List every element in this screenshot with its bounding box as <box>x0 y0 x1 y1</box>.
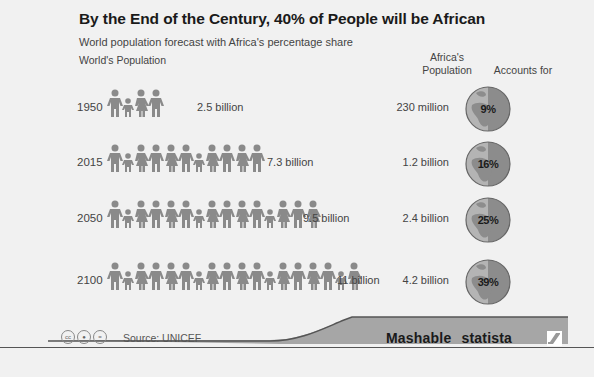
person-man-icon <box>148 144 164 172</box>
africa-population-value: 1.2 billion <box>403 156 449 168</box>
person-man-icon <box>290 262 306 290</box>
year-label: 2015 <box>77 156 103 168</box>
person-man-icon <box>148 262 164 290</box>
world-population-value: 11 billion <box>337 274 380 286</box>
africa-population-value: 230 million <box>396 101 449 113</box>
share-value: 16% <box>464 140 512 188</box>
person-woman-icon <box>204 200 220 228</box>
globe-icon: 25% <box>464 196 512 244</box>
license-icons: cc ● = <box>61 330 107 344</box>
person-woman-icon <box>234 200 250 228</box>
person-woman-icon <box>163 200 179 228</box>
no-derivatives-icon: = <box>93 330 107 344</box>
attribution-icon: ● <box>77 330 91 344</box>
world-population-value: 2.5 billion <box>197 101 243 113</box>
footer-divider <box>0 347 594 348</box>
table-row: 2100 11 billion 4.2 billion 39% <box>0 256 594 306</box>
year-label: 2050 <box>77 212 103 224</box>
person-man-icon <box>219 144 235 172</box>
world-population-value: 9.5 billion <box>303 212 349 224</box>
person-woman-icon <box>234 262 250 290</box>
person-man-icon <box>107 144 123 172</box>
column-header-africa-line2: Population <box>412 64 482 77</box>
column-header-africa: Africa's Population <box>412 51 482 77</box>
table-row: 1950 2.5 billion 230 million 9% <box>0 83 594 133</box>
person-man-icon <box>320 262 336 290</box>
world-population-value: 7.3 billion <box>267 156 313 168</box>
person-woman-icon <box>163 262 179 290</box>
population-figures <box>107 89 163 117</box>
person-man-icon <box>107 89 123 117</box>
person-man-icon <box>148 200 164 228</box>
africa-population-value: 4.2 billion <box>403 274 449 286</box>
statista-icon <box>547 331 562 346</box>
column-header-africa-line1: Africa's <box>412 51 482 64</box>
person-woman-icon <box>275 262 291 290</box>
person-man-icon <box>249 262 265 290</box>
table-row: 2015 7.3 billion 1.2 billion 16% <box>0 138 594 188</box>
person-man-icon <box>178 144 194 172</box>
person-man-icon <box>178 262 194 290</box>
share-value: 39% <box>464 258 512 306</box>
share-value: 25% <box>464 196 512 244</box>
table-row: 2050 9.5 billion 2.4 billion 25% <box>0 194 594 244</box>
source-label: Source: UNICEF <box>123 332 201 344</box>
chart-title: By the End of the Century, 40% of People… <box>79 10 485 28</box>
person-man-icon <box>249 200 265 228</box>
person-woman-icon <box>133 200 149 228</box>
year-label: 2100 <box>77 274 103 286</box>
person-woman-icon <box>275 200 291 228</box>
person-man-icon <box>219 262 235 290</box>
population-figures <box>107 144 264 172</box>
share-value: 9% <box>464 85 512 133</box>
chart-subtitle: World population forecast with Africa's … <box>79 36 353 48</box>
person-man-icon <box>178 200 194 228</box>
column-header-accounts: Accounts for <box>488 64 558 76</box>
person-woman-icon <box>133 144 149 172</box>
person-woman-icon <box>133 89 149 117</box>
person-woman-icon <box>305 262 321 290</box>
year-label: 1950 <box>77 101 103 113</box>
person-man-icon <box>107 200 123 228</box>
person-man-icon <box>148 89 164 117</box>
person-man-icon <box>219 200 235 228</box>
person-woman-icon <box>204 144 220 172</box>
person-woman-icon <box>204 262 220 290</box>
column-header-world: World's Population <box>79 54 166 66</box>
population-figures <box>107 262 361 290</box>
person-man-icon <box>249 144 265 172</box>
africa-population-value: 2.4 billion <box>403 212 449 224</box>
population-figures <box>107 200 320 228</box>
globe-icon: 9% <box>464 85 512 133</box>
person-woman-icon <box>234 144 250 172</box>
globe-icon: 39% <box>464 258 512 306</box>
person-man-icon <box>107 262 123 290</box>
globe-icon: 16% <box>464 140 512 188</box>
brand-logo: Mashable statista <box>386 330 512 346</box>
person-woman-icon <box>133 262 149 290</box>
cc-icon: cc <box>61 330 75 344</box>
person-woman-icon <box>163 144 179 172</box>
